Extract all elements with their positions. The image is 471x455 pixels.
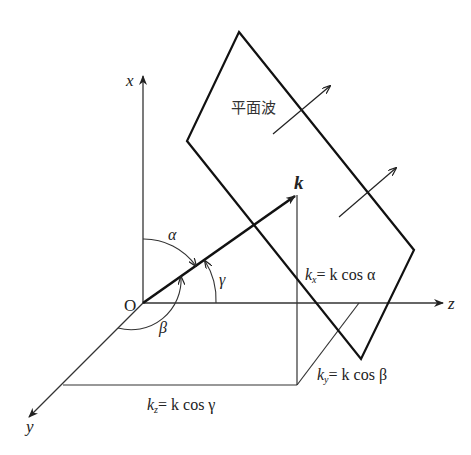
- gamma-label: γ: [219, 271, 226, 289]
- wavefront-plane: [187, 32, 414, 359]
- y-axis-label: y: [24, 417, 34, 436]
- plane-wave-label: 平面波: [231, 99, 276, 117]
- gamma-arc: [205, 261, 216, 303]
- beta-label: β: [158, 319, 167, 337]
- kz-equation: kz= k cos γ: [147, 396, 215, 415]
- propagation-arrow-upper: [273, 86, 330, 134]
- origin-label: O: [124, 296, 136, 315]
- alpha-label: α: [168, 226, 177, 243]
- plane-wave-diagram: x z y O k 平面波 α γ β kx= k cos α ky= k co…: [0, 0, 471, 455]
- kx-equation: kx= k cos α: [305, 266, 376, 285]
- y-axis: [29, 303, 143, 417]
- z-axis-label: z: [447, 294, 455, 313]
- k-vector-label: k: [294, 172, 304, 193]
- alpha-arc: [143, 239, 196, 266]
- x-axis-label: x: [125, 71, 134, 90]
- propagation-arrow-lower: [339, 168, 396, 217]
- ky-equation: ky= k cos β: [317, 366, 387, 385]
